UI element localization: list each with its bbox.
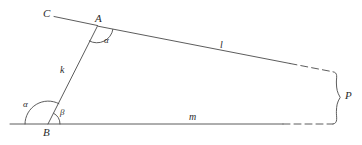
geometry-figure [0, 0, 362, 145]
segment-l-dashed [290, 64, 333, 72]
angle-label-beta-b: β [60, 108, 64, 117]
segment-label-k: k [60, 65, 64, 75]
segment-ca-line [54, 17, 98, 26]
segment-l-line [97, 26, 290, 64]
point-label-c: C [43, 8, 50, 19]
point-label-b: B [43, 127, 50, 138]
brace-p [333, 72, 340, 124]
segment-label-m: m [189, 112, 196, 122]
point-label-a: A [95, 13, 102, 24]
brace-label-p: P [345, 90, 352, 101]
angle-label-alpha-b: α [23, 100, 28, 109]
angle-label-alpha-a: α [104, 36, 109, 45]
segment-label-l: l [220, 40, 223, 50]
diagram-canvas: C A B k l m α α β P [0, 0, 362, 145]
